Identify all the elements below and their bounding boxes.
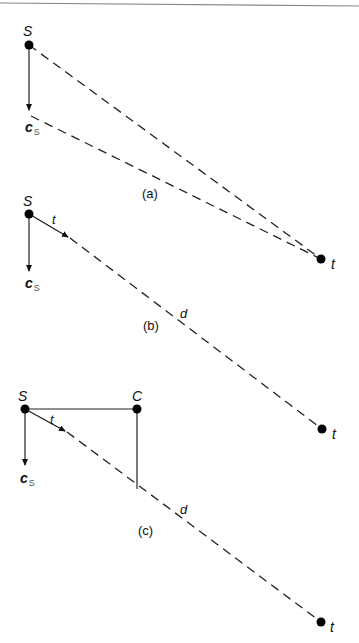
dashed-edge-s-to-t	[29, 45, 321, 259]
top-rule	[0, 3, 359, 6]
t-vector-arrow	[29, 214, 68, 237]
caption-b: (b)	[143, 319, 159, 332]
dashed-edge-d	[70, 238, 322, 429]
node-s	[21, 405, 30, 414]
label-t-vector-b: t	[52, 213, 56, 226]
label-cs-a: cS	[25, 120, 40, 137]
cs-main: c	[25, 275, 33, 291]
label-s-a: S	[23, 24, 32, 38]
caption-a: (a)	[142, 187, 158, 200]
cs-main: c	[25, 119, 33, 135]
panel-c	[21, 405, 326, 627]
label-cs-c: cS	[20, 471, 35, 488]
label-t-vector-c: t	[50, 413, 54, 426]
node-c	[133, 405, 142, 414]
label-c-c: C	[132, 389, 142, 403]
caption-c: (c)	[138, 524, 153, 537]
label-t-b: t	[332, 427, 336, 441]
node-t	[317, 618, 326, 627]
label-d-c: d	[180, 503, 187, 516]
label-t-c: t	[330, 620, 334, 634]
node-s	[25, 41, 34, 50]
node-t	[318, 425, 327, 434]
cs-subscript: S	[29, 478, 35, 488]
label-s-c: S	[18, 389, 27, 403]
label-d-b: d	[180, 307, 187, 320]
cs-subscript: S	[34, 127, 40, 137]
diagram-canvas	[0, 0, 359, 643]
panel-a	[25, 41, 326, 264]
dashed-edge-d	[67, 432, 321, 622]
panel-b	[25, 210, 327, 434]
t-vector-arrow	[25, 409, 65, 431]
label-t-a: t	[331, 257, 335, 271]
node-s	[25, 210, 34, 219]
dashed-edge-cs-to-t	[31, 116, 321, 259]
cs-subscript: S	[34, 283, 40, 293]
node-t	[317, 255, 326, 264]
label-s-b: S	[23, 194, 32, 208]
label-cs-b: cS	[25, 276, 40, 293]
cs-main: c	[20, 470, 28, 486]
